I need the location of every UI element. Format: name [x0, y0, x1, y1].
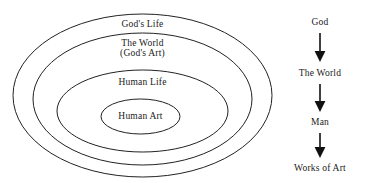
arrow-down-icon-world-to-man	[315, 84, 326, 112]
flow-node-the-world-text: The World	[299, 68, 341, 78]
diagram-canvas: God's Life The World (God's Art) Human L…	[0, 0, 367, 183]
flow-node-god-text: God	[312, 17, 329, 27]
flow-node-works-of-art-text: Works of Art	[294, 163, 346, 173]
arrow-down-icon-god-to-world	[315, 33, 326, 62]
flow-node-the-world: The World	[299, 68, 341, 78]
ring-label-human-life-text: Human Life	[118, 77, 166, 87]
flow-node-man-text: Man	[311, 117, 329, 127]
ring-label-human-life: Human Life	[118, 77, 166, 87]
ring-label-human-art-text: Human Art	[118, 111, 162, 121]
diagram-vector-layer	[0, 0, 367, 183]
flow-node-god: God	[312, 17, 329, 27]
ring-label-the-world-text: The World	[121, 38, 163, 48]
arrow-down-icon-man-to-works	[315, 133, 326, 158]
ring-label-the-world: The World (God's Art)	[120, 38, 165, 59]
ring-label-human-art: Human Art	[118, 111, 162, 121]
ring-label-gods-life: God's Life	[122, 19, 164, 29]
flow-node-works-of-art: Works of Art	[294, 163, 346, 173]
flow-node-man: Man	[311, 117, 329, 127]
ring-label-the-world-subtext: (God's Art)	[120, 48, 165, 58]
ring-label-gods-life-text: God's Life	[122, 19, 164, 29]
